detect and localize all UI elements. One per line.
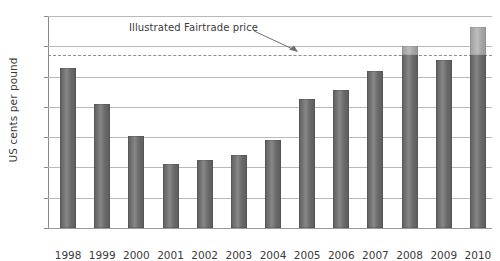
y-tick-mark-20: [44, 198, 48, 199]
fairtrade-annotation-label: Illustrated Fairtrade price: [129, 22, 258, 33]
bar-2008: [402, 46, 418, 228]
bar-1998: [60, 68, 76, 229]
y-tick-mark-140: [44, 16, 48, 17]
y-axis-title: US cents per pound: [2, 0, 24, 220]
y-axis-title-text: US cents per pound: [7, 57, 19, 162]
bar-2007: [367, 71, 383, 228]
y-tick-mark-100: [44, 77, 48, 78]
bar-2010: [470, 27, 486, 228]
gridline-60: [48, 137, 492, 138]
annotation-arrow-icon: [253, 30, 305, 56]
y-tick-mark-80: [44, 107, 48, 108]
bar-1999: [94, 104, 110, 228]
bar-above-fairtrade-2010: [470, 27, 486, 56]
bar-2004: [265, 140, 281, 228]
gridline-100: [48, 77, 492, 78]
bar-2000: [128, 136, 144, 228]
bar-above-fairtrade-2008: [402, 46, 418, 55]
gridline-0: [48, 228, 492, 229]
y-tick-mark-60: [44, 137, 48, 138]
bar-2009: [436, 60, 452, 228]
bar-2001: [163, 164, 179, 228]
x-tick-label-2010: 2010: [456, 250, 500, 261]
bar-2005: [299, 99, 315, 228]
y-tick-mark-0: [44, 228, 48, 229]
y-tick-mark-120: [44, 46, 48, 47]
y-axis-line: [48, 16, 49, 228]
gridline-80: [48, 107, 492, 108]
gridline-140: [48, 16, 492, 17]
bar-2003: [231, 155, 247, 228]
bar-2002: [197, 160, 213, 228]
y-tick-mark-40: [44, 167, 48, 168]
bar-2006: [333, 90, 349, 228]
